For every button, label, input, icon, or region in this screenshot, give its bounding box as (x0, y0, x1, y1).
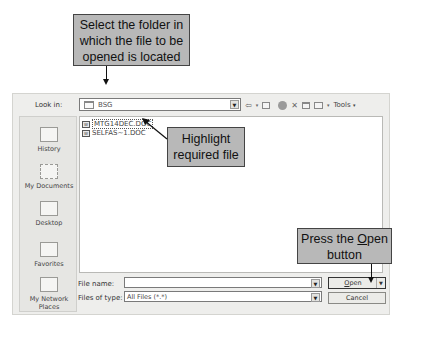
search-web-icon[interactable] (278, 101, 287, 110)
place-label: My Documents (20, 182, 78, 190)
word-doc-icon: W (82, 121, 90, 128)
tools-label: Tools (333, 101, 350, 109)
place-my-documents[interactable]: My Documents (20, 164, 78, 190)
folder-icon (84, 101, 94, 109)
new-folder-icon[interactable] (302, 102, 310, 109)
callout-line: which the file to be (74, 33, 189, 49)
files-of-type-label: Files of type: (78, 294, 123, 302)
back-icon[interactable]: ⇦ (245, 101, 252, 110)
open-button[interactable]: Open ▼ (328, 277, 386, 289)
place-history[interactable]: History (20, 127, 78, 153)
place-label: My Network Places (29, 295, 69, 311)
callout-line: button (298, 247, 391, 263)
callout-press-open: Press the Open button (297, 228, 392, 264)
chevron-down-icon: ▾ (353, 102, 356, 108)
views-icon[interactable] (314, 102, 323, 109)
look-in-dropdown[interactable]: BSG ▼ (79, 98, 241, 111)
places-bar: History My Documents Desktop Favorites M… (19, 116, 77, 312)
file-item[interactable]: W SELFAS~1.DOC (82, 129, 146, 137)
callout-arrow (140, 117, 170, 147)
chevron-down-icon[interactable]: ▼ (311, 279, 320, 288)
place-network[interactable]: My Network Places (20, 277, 78, 311)
callout-line: Press the Open (298, 231, 391, 247)
callout-line: Highlight (168, 131, 244, 147)
files-of-type-value: All Files (*.*) (127, 293, 167, 301)
up-folder-icon[interactable] (262, 102, 270, 109)
cancel-button[interactable]: Cancel (328, 292, 386, 304)
file-name: SELFAS~1.DOC (92, 129, 146, 137)
callout-select-folder: Select the folder in which the file to b… (73, 14, 190, 66)
place-desktop[interactable]: Desktop (20, 201, 78, 227)
favorites-icon (40, 242, 58, 257)
look-in-value: BSG (98, 101, 113, 109)
callout-arrow (106, 66, 107, 80)
chevron-down-icon[interactable]: ▼ (376, 278, 385, 288)
place-label: Desktop (20, 219, 78, 227)
file-name-label: File name: (78, 280, 114, 288)
chevron-down-icon[interactable]: ▼ (230, 100, 239, 109)
back-dropdown-icon[interactable]: ▾ (256, 102, 259, 108)
network-places-icon (40, 277, 58, 292)
callout-highlight-file: Highlight required file (167, 127, 245, 167)
file-name-field[interactable]: ▼ (124, 277, 322, 288)
desktop-icon (40, 201, 58, 216)
place-label: Favorites (20, 260, 78, 268)
word-doc-icon: W (82, 130, 90, 137)
callout-arrow (371, 264, 372, 278)
callout-line: Select the folder in (74, 17, 189, 33)
delete-icon[interactable]: ✕ (291, 101, 298, 110)
chevron-down-icon[interactable]: ▼ (311, 293, 320, 302)
look-in-label: Look in: (35, 101, 62, 109)
files-of-type-dropdown[interactable]: All Files (*.*) ▼ (124, 291, 322, 302)
place-favorites[interactable]: Favorites (20, 242, 78, 268)
history-icon (40, 127, 58, 142)
tools-menu[interactable]: Tools ▾ (333, 101, 355, 109)
place-label: History (20, 145, 78, 153)
my-documents-icon (40, 164, 58, 179)
views-dropdown-icon[interactable]: ▾ (327, 102, 330, 108)
dialog-toolbar: ⇦ ▾ ✕ ▾ Tools ▾ (245, 98, 355, 112)
callout-line: required file (168, 147, 244, 163)
open-label: Open (344, 279, 361, 287)
callout-line: opened is located (74, 49, 189, 65)
